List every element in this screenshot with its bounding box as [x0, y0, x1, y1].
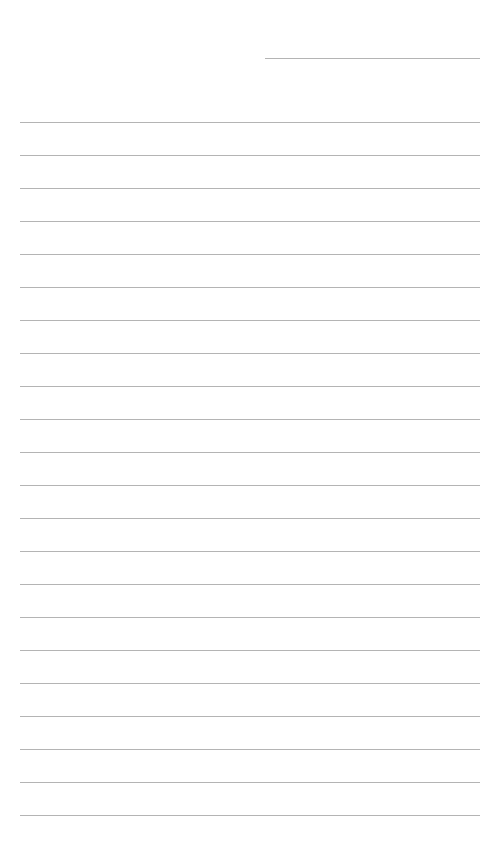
ruled-line — [20, 254, 480, 255]
ruled-line — [20, 485, 480, 486]
ruled-line — [20, 617, 480, 618]
ruled-line — [20, 419, 480, 420]
ruled-line — [20, 650, 480, 651]
ruled-line — [20, 716, 480, 717]
ruled-line — [20, 386, 480, 387]
ruled-line — [20, 782, 480, 783]
ruled-line — [20, 683, 480, 684]
header-field-line — [265, 58, 480, 59]
ruled-line — [20, 122, 480, 123]
ruled-line — [20, 749, 480, 750]
ruled-line — [20, 287, 480, 288]
ruled-line — [20, 155, 480, 156]
ruled-line — [20, 188, 480, 189]
ruled-line — [20, 815, 480, 816]
ruled-line — [20, 320, 480, 321]
ruled-line — [20, 452, 480, 453]
ruled-line — [20, 221, 480, 222]
ruled-line — [20, 518, 480, 519]
ruled-line — [20, 353, 480, 354]
ruled-line — [20, 584, 480, 585]
ruled-line — [20, 551, 480, 552]
